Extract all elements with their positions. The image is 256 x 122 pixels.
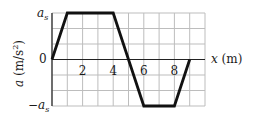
y-label-bottom: −as [28,98,49,114]
x-tick-label: 8 [171,64,179,78]
acceleration-chart: as 0 −as a (m/s2) 2468 x (m) [0,0,256,122]
y-label-top: as [37,6,48,22]
y-axis-title: a (m/s2) [11,40,26,87]
x-tick-label: 2 [79,64,87,78]
x-tick-label: 6 [140,64,148,78]
y-label-zero: 0 [39,52,47,66]
x-axis-title: x (m) [211,52,242,66]
x-tick-label: 4 [109,64,117,78]
